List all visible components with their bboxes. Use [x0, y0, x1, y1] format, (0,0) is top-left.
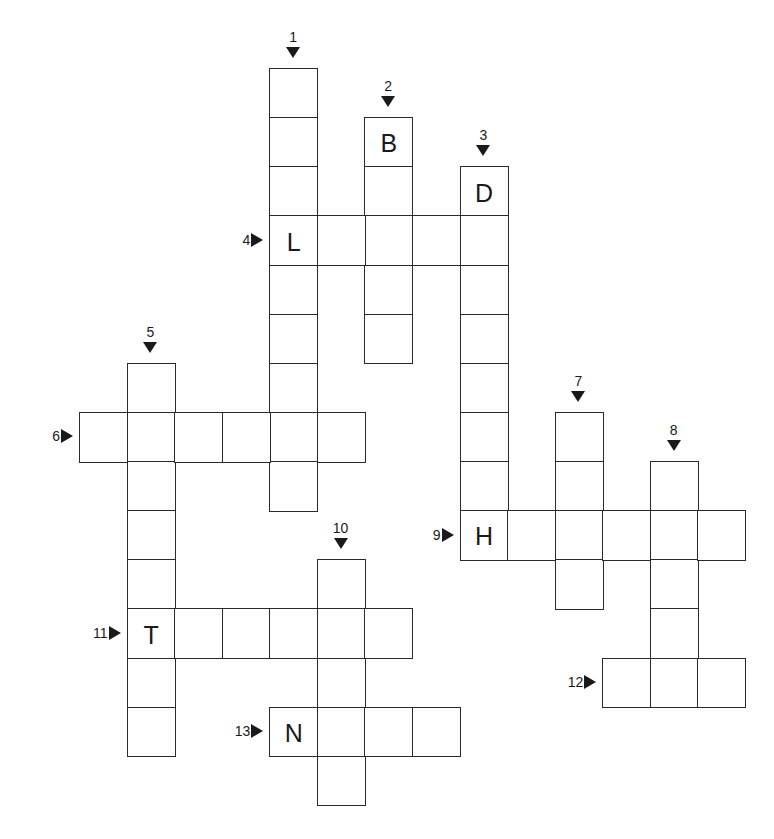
grid-cell-r3-c8[interactable]: [460, 215, 509, 266]
clue-8-down-label: 8: [659, 423, 689, 451]
right-arrow-icon: [442, 528, 454, 542]
grid-cell-r8-c4[interactable]: [269, 461, 318, 512]
grid-cell-r7-c3[interactable]: [222, 412, 271, 463]
grid-cell-r7-c1[interactable]: [127, 412, 176, 463]
clue-number: 10: [326, 521, 356, 535]
down-arrow-icon: [667, 440, 681, 451]
grid-cell-r12-c11[interactable]: [602, 658, 651, 709]
grid-cell-r7-c4[interactable]: [269, 412, 318, 463]
grid-cell-r3-c5[interactable]: [317, 215, 366, 266]
clue-11-across-label: 11: [75, 623, 121, 643]
grid-cell-r7-c10[interactable]: [555, 412, 604, 463]
grid-cell-r11-c5[interactable]: [317, 608, 366, 659]
grid-cell-r9-c10[interactable]: [555, 510, 604, 561]
right-arrow-icon: [251, 233, 263, 247]
clue-number: 13: [235, 723, 251, 739]
grid-cell-r11-c2[interactable]: [174, 608, 223, 659]
down-arrow-icon: [334, 538, 348, 549]
grid-cell-r8-c1[interactable]: [127, 461, 176, 512]
clue-7-down-label: 7: [563, 374, 593, 402]
clue-number: 4: [242, 232, 250, 248]
clue-number: 8: [659, 423, 689, 437]
grid-cell-r6-c8[interactable]: [460, 363, 509, 414]
grid-cell-r11-c3[interactable]: [222, 608, 271, 659]
clue-12-across-label: 12: [550, 672, 596, 692]
down-arrow-icon: [286, 47, 300, 58]
crossword-grid: 12345678910111213LBDHTN: [0, 0, 774, 839]
right-arrow-icon: [109, 626, 121, 640]
down-arrow-icon: [571, 391, 585, 402]
grid-cell-r13-c7[interactable]: [412, 707, 461, 758]
grid-cell-r4-c6[interactable]: [364, 265, 413, 316]
grid-cell-r1-c4[interactable]: [269, 117, 318, 168]
clue-9-across-label: 9: [408, 525, 454, 545]
clue-4-across-label: 4: [217, 230, 263, 250]
down-arrow-icon: [143, 342, 157, 353]
grid-cell-r9-c8[interactable]: H: [460, 510, 509, 561]
clue-number: 1: [278, 30, 308, 44]
right-arrow-icon: [61, 429, 73, 443]
grid-cell-r4-c4[interactable]: [269, 265, 318, 316]
grid-cell-r0-c4[interactable]: [269, 68, 318, 119]
grid-cell-r10-c5[interactable]: [317, 559, 366, 610]
grid-cell-r11-c12[interactable]: [650, 608, 699, 659]
clue-number: 11: [93, 625, 108, 641]
grid-cell-r10-c12[interactable]: [650, 559, 699, 610]
grid-cell-r8-c10[interactable]: [555, 461, 604, 512]
clue-number: 3: [468, 128, 498, 142]
clue-3-down-label: 3: [468, 128, 498, 156]
grid-cell-r3-c4[interactable]: L: [269, 215, 318, 266]
clue-13-across-label: 13: [217, 721, 263, 741]
grid-cell-r12-c5[interactable]: [317, 658, 366, 709]
grid-cell-r12-c1[interactable]: [127, 658, 176, 709]
grid-cell-r7-c2[interactable]: [174, 412, 223, 463]
grid-cell-r11-c4[interactable]: [269, 608, 318, 659]
clue-number: 5: [135, 325, 165, 339]
grid-cell-r2-c4[interactable]: [269, 166, 318, 217]
grid-cell-r10-c1[interactable]: [127, 559, 176, 610]
grid-cell-r7-c5[interactable]: [317, 412, 366, 463]
right-arrow-icon: [251, 724, 263, 738]
grid-cell-r1-c6[interactable]: B: [364, 117, 413, 168]
clue-5-down-label: 5: [135, 325, 165, 353]
grid-cell-r5-c4[interactable]: [269, 314, 318, 365]
grid-cell-r13-c1[interactable]: [127, 707, 176, 758]
grid-cell-r2-c6[interactable]: [364, 166, 413, 217]
grid-cell-r9-c1[interactable]: [127, 510, 176, 561]
grid-cell-r11-c6[interactable]: [364, 608, 413, 659]
grid-cell-r5-c8[interactable]: [460, 314, 509, 365]
clue-2-down-label: 2: [373, 79, 403, 107]
clue-1-down-label: 1: [278, 30, 308, 58]
grid-cell-r8-c8[interactable]: [460, 461, 509, 512]
grid-cell-r7-c8[interactable]: [460, 412, 509, 463]
grid-cell-r13-c6[interactable]: [364, 707, 413, 758]
clue-10-down-label: 10: [326, 521, 356, 549]
down-arrow-icon: [476, 145, 490, 156]
clue-number: 7: [563, 374, 593, 388]
grid-cell-r7-c0[interactable]: [79, 412, 128, 463]
clue-number: 6: [52, 428, 60, 444]
grid-cell-r13-c5[interactable]: [317, 707, 366, 758]
grid-cell-r4-c8[interactable]: [460, 265, 509, 316]
grid-cell-r8-c12[interactable]: [650, 461, 699, 512]
grid-cell-r13-c4[interactable]: N: [269, 707, 318, 758]
grid-cell-r9-c11[interactable]: [602, 510, 651, 561]
grid-cell-r6-c1[interactable]: [127, 363, 176, 414]
grid-cell-r11-c1[interactable]: T: [127, 608, 176, 659]
clue-number: 2: [373, 79, 403, 93]
grid-cell-r9-c13[interactable]: [697, 510, 746, 561]
grid-cell-r10-c10[interactable]: [555, 559, 604, 610]
grid-cell-r12-c12[interactable]: [650, 658, 699, 709]
grid-cell-r9-c9[interactable]: [507, 510, 556, 561]
right-arrow-icon: [584, 675, 596, 689]
grid-cell-r9-c12[interactable]: [650, 510, 699, 561]
grid-cell-r14-c5[interactable]: [317, 756, 366, 807]
grid-cell-r3-c7[interactable]: [412, 215, 461, 266]
grid-cell-r5-c6[interactable]: [364, 314, 413, 365]
grid-cell-r6-c4[interactable]: [269, 363, 318, 414]
grid-cell-r12-c13[interactable]: [697, 658, 746, 709]
grid-cell-r2-c8[interactable]: D: [460, 166, 509, 217]
clue-6-across-label: 6: [27, 426, 73, 446]
clue-number: 9: [433, 527, 441, 543]
grid-cell-r3-c6[interactable]: [364, 215, 413, 266]
